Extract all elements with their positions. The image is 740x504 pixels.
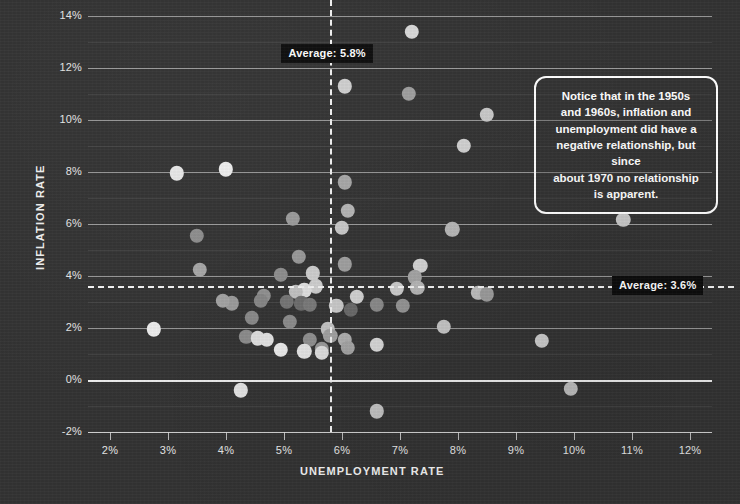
x-tick-label: 4% <box>201 444 251 456</box>
zero-line <box>88 380 712 382</box>
data-point <box>370 404 384 418</box>
data-point <box>297 344 311 358</box>
chart-canvas: 14%12%10%8%6%4%2%0%-2%2%3%4%5%6%7%8%9%10… <box>0 0 740 504</box>
data-point <box>396 299 410 313</box>
data-point <box>169 166 183 180</box>
data-point <box>303 297 317 311</box>
data-point <box>233 383 247 397</box>
x-tick-label: 7% <box>375 444 425 456</box>
data-point <box>190 228 204 242</box>
y-tick-label: 8% <box>40 165 82 177</box>
data-point <box>436 319 450 333</box>
x-tick-label: 12% <box>665 444 715 456</box>
y-tick-label: 2% <box>40 321 82 333</box>
x-tick-label: 10% <box>549 444 599 456</box>
y-tick-label: 14% <box>40 9 82 21</box>
x-tick-mark <box>516 432 517 440</box>
data-point <box>254 293 268 307</box>
grid-band <box>88 406 712 407</box>
data-point <box>401 87 415 101</box>
data-point <box>445 222 459 236</box>
y-tick-label: 4% <box>40 269 82 281</box>
insight-callout: Notice that in the 1950sand 1960s, infla… <box>534 76 718 214</box>
data-point <box>343 303 357 317</box>
x-tick-label: 9% <box>491 444 541 456</box>
x-tick-mark <box>574 432 575 440</box>
data-point <box>146 322 160 336</box>
data-point <box>404 24 418 38</box>
data-point <box>616 213 630 227</box>
data-point <box>457 139 471 153</box>
callout-line: and 1960s, inflation and <box>548 104 704 120</box>
data-point <box>314 345 328 359</box>
y-tick-label: 0% <box>40 373 82 385</box>
gridline-14 <box>88 16 712 17</box>
x-tick-mark <box>458 432 459 440</box>
x-axis-title: UNEMPLOYMENT RATE <box>300 465 444 477</box>
y-tick-label: 10% <box>40 113 82 125</box>
callout-line: unemployment did have a <box>548 121 704 137</box>
grid-band <box>88 250 712 251</box>
data-point <box>338 79 352 93</box>
y-axis-title: INFLATION RATE <box>34 165 46 270</box>
x-tick-label: 11% <box>607 444 657 456</box>
data-point <box>338 257 352 271</box>
x-tick-mark <box>168 432 169 440</box>
y-tick-label: -2% <box>40 425 82 437</box>
data-point <box>291 249 305 263</box>
grid-band <box>88 42 712 43</box>
data-point <box>274 267 288 281</box>
data-point <box>335 221 349 235</box>
gridline-12 <box>88 68 712 69</box>
x-tick-label: 8% <box>433 444 483 456</box>
callout-line: is apparent. <box>548 186 704 202</box>
y-tick-label: 12% <box>40 61 82 73</box>
average-unemployment-label: Average: 5.8% <box>281 44 372 63</box>
average-unemployment-line <box>330 0 332 432</box>
data-point <box>338 175 352 189</box>
callout-line: negative relationship, but since <box>548 137 704 170</box>
x-tick-mark <box>632 432 633 440</box>
data-point <box>245 310 259 324</box>
x-tick-mark <box>342 432 343 440</box>
callout-line: about 1970 no relationship <box>548 170 704 186</box>
data-point <box>259 332 273 346</box>
callout-line: Notice that in the 1950s <box>548 88 704 104</box>
gridline-2 <box>88 328 712 329</box>
x-tick-label: 3% <box>143 444 193 456</box>
x-tick-mark <box>284 432 285 440</box>
data-point <box>480 287 494 301</box>
data-point <box>370 338 384 352</box>
data-point <box>564 382 578 396</box>
data-point <box>390 282 404 296</box>
x-tick-mark <box>110 432 111 440</box>
x-tick-label: 6% <box>317 444 367 456</box>
x-tick-mark <box>400 432 401 440</box>
data-point <box>274 343 288 357</box>
data-point <box>341 340 355 354</box>
data-point <box>535 334 549 348</box>
average-inflation-label: Average: 3.6% <box>612 276 703 295</box>
data-point <box>193 262 207 276</box>
x-tick-label: 2% <box>85 444 135 456</box>
x-tick-label: 5% <box>259 444 309 456</box>
data-point <box>219 162 233 176</box>
data-point <box>341 204 355 218</box>
grid-band <box>88 354 712 355</box>
y-tick-label: 6% <box>40 217 82 229</box>
data-point <box>370 297 384 311</box>
data-point <box>280 295 294 309</box>
data-point <box>283 314 297 328</box>
x-tick-mark <box>226 432 227 440</box>
x-tick-mark <box>690 432 691 440</box>
